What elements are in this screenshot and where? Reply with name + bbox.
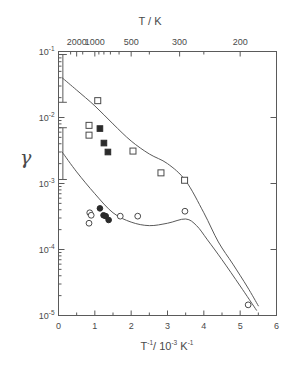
y-axis-tick-label: 10-4 xyxy=(39,244,55,255)
data-point-open-circle xyxy=(88,212,94,218)
y-axis-tick-label: 10-5 xyxy=(39,310,55,321)
data-point-filled-square xyxy=(101,140,107,146)
top-axis-title: T / K xyxy=(138,16,161,27)
upper-curve xyxy=(62,78,258,306)
data-point-open-square xyxy=(86,132,92,138)
top-axis-tick-label: 200 xyxy=(233,38,248,47)
x-axis-tick-label: 3 xyxy=(165,322,170,331)
data-point-filled-square xyxy=(97,126,103,132)
x-axis-tick-label: 1 xyxy=(92,322,97,331)
figure-container: γ T / K T-1/ 10-3 K-1 012345610-510-410-… xyxy=(0,0,295,369)
data-point-open-square xyxy=(158,170,164,176)
y-axis-tick-label: 10-1 xyxy=(39,46,55,57)
data-point-open-square xyxy=(182,177,188,183)
data-point-filled-circle xyxy=(106,217,112,223)
top-axis-tick-label: 2000 xyxy=(67,38,87,47)
top-axis-tick-label: 1000 xyxy=(85,38,105,47)
x-axis-tick-label: 4 xyxy=(201,322,206,331)
x-axis-title-exponent2: -3 xyxy=(171,339,177,346)
plot-frame xyxy=(59,52,277,316)
data-point-filled-circle xyxy=(97,206,103,212)
x-axis-tick-label: 0 xyxy=(56,322,61,331)
data-point-open-circle xyxy=(135,213,141,219)
data-point-open-square xyxy=(86,122,92,128)
y-axis-label: γ xyxy=(20,148,31,167)
x-axis-title-symbol: T xyxy=(141,340,148,352)
data-point-filled-square xyxy=(105,149,111,155)
x-axis-tick-label: 2 xyxy=(129,322,134,331)
data-point-open-circle xyxy=(182,208,188,214)
data-point-open-square xyxy=(130,148,136,154)
x-axis-title: T-1/ 10-3 K-1 xyxy=(141,340,194,352)
x-axis-title-divider: / 10 xyxy=(153,340,171,352)
data-point-open-circle xyxy=(86,220,92,226)
data-point-open-circle xyxy=(117,213,123,219)
data-point-open-circle xyxy=(245,302,251,308)
data-point-open-square xyxy=(95,98,101,104)
y-axis-tick-label: 10-3 xyxy=(39,178,55,189)
x-axis-tick-label: 6 xyxy=(274,322,279,331)
top-axis-tick-label: 300 xyxy=(172,38,187,47)
x-axis-tick-label: 5 xyxy=(238,322,243,331)
x-axis-title-unit: K xyxy=(180,340,187,352)
top-axis-tick-label: 500 xyxy=(124,38,139,47)
y-axis-tick-label: 10-2 xyxy=(39,112,55,123)
x-axis-title-exponent3: -1 xyxy=(188,339,194,346)
